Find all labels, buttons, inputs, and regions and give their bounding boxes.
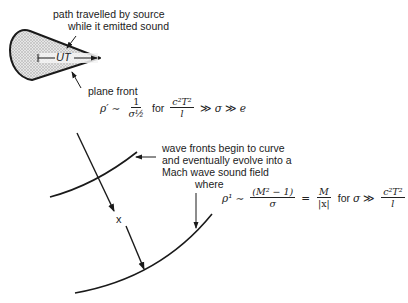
formula1-fraction: 1 σ½ [126,96,146,119]
plane-front-leader-arrow [72,72,81,88]
formula2-eq: = [301,192,310,204]
formula2-for: for [338,192,350,204]
x-label: x [116,213,122,225]
formula1-sim: ∼ [112,102,121,114]
upper-wave-front [50,152,137,197]
formula1-e: e [240,102,246,114]
wave-label-line3: Mach wave sound field [162,166,269,178]
formula2-fraction2: M |x| [316,186,332,209]
formula1-rel2: ≫ [225,102,237,114]
wave-label-line1: wave fronts begin to curve [162,142,285,154]
source-path-teardrop [10,30,100,80]
formula2-sigma: σ [353,192,360,204]
where-label: where [195,178,224,190]
formula1-lhs: ρ′ [100,102,109,114]
formula2-fraction: (M² − 1) σ [250,186,295,209]
formula2-condition-fraction: c²T² l [381,186,404,209]
ut-label: UT [56,51,71,63]
formula-mach-field: ρ¹ ∼ (M² − 1) σ = M |x| for σ ≫ c²T² l [222,186,408,209]
path-label-line2: while it emitted sound [68,20,169,32]
path-label-line1: path travelled by source [53,8,164,20]
formula2-sim: ∼ [235,192,244,204]
lower-wave-front [75,214,212,293]
x-distance-arrow-lower [126,226,144,269]
formula2-rel: ≫ [363,192,375,204]
formula1-condition-fraction: c²T² l [170,96,193,119]
formula1-for: for [152,102,164,114]
formula2-lhs: ρ¹ [222,192,232,204]
formula-plane-front: ρ′ ∼ 1 σ½ for c²T² l ≫ σ ≫ e [100,96,246,119]
wave-label-line2: and eventually evolve into a [162,154,292,166]
formula1-rel1: ≫ [200,102,212,114]
formula1-sigma: σ [215,102,222,114]
